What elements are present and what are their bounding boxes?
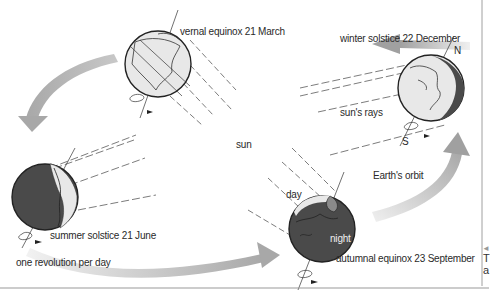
earths-orbit-label: Earth's orbit xyxy=(373,170,423,181)
summer-solstice-label: summer solstice 21 June xyxy=(50,230,156,241)
night-label: night xyxy=(330,233,351,244)
suns-rays-label: sun's rays xyxy=(340,107,383,118)
north-pole-label: N xyxy=(454,45,461,56)
side-text-line2: a xyxy=(483,264,489,276)
south-pole-label: S xyxy=(402,136,408,147)
winter-solstice-label: winter solstice 22 December xyxy=(340,33,460,44)
vernal-equinox-label: vernal equinox 21 March xyxy=(180,26,285,37)
day-label: day xyxy=(286,189,302,200)
side-text-line1: T xyxy=(483,252,490,264)
autumnal-equinox-label: autumnal equinox 23 September xyxy=(336,253,475,264)
rotation-label: one revolution per day xyxy=(16,257,111,268)
sun-label: sun xyxy=(236,139,252,150)
orbit-arrow-left xyxy=(18,54,118,132)
sun-rays xyxy=(44,40,445,235)
